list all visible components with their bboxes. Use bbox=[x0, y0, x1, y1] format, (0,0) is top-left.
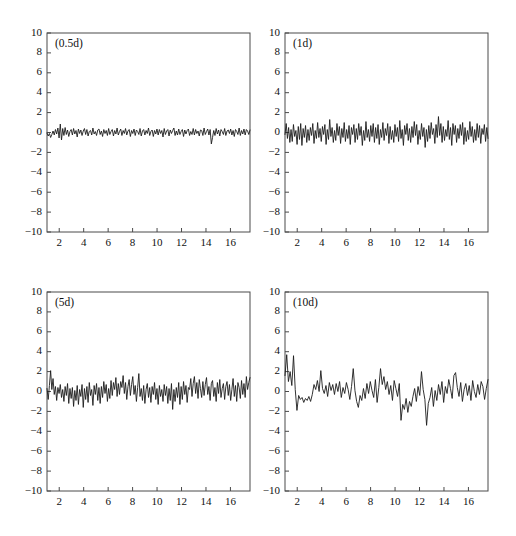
panel-canvas: −10−8−6−4−20246810246810121416(5d) bbox=[0, 271, 258, 523]
y-tick-label: 10 bbox=[269, 26, 281, 38]
x-tick-label: 6 bbox=[343, 495, 349, 507]
y-tick-label: −10 bbox=[263, 225, 281, 237]
y-tick-label: 0 bbox=[37, 384, 43, 396]
y-tick-label: 4 bbox=[37, 344, 43, 356]
x-tick-label: 12 bbox=[176, 495, 187, 507]
y-tick-label: −6 bbox=[30, 444, 42, 456]
y-tick-label: 2 bbox=[275, 105, 281, 117]
y-tick-label: 0 bbox=[37, 125, 43, 137]
y-tick-label: −8 bbox=[268, 464, 280, 476]
x-tick-label: 16 bbox=[463, 495, 475, 507]
x-tick-label: 8 bbox=[130, 236, 136, 248]
y-tick-label: 4 bbox=[275, 85, 281, 97]
panel-label: (5d) bbox=[55, 296, 74, 309]
x-tick-label: 12 bbox=[176, 236, 187, 248]
panel-label: (10d) bbox=[293, 296, 318, 309]
x-tick-label: 6 bbox=[105, 495, 111, 507]
y-tick-label: −8 bbox=[268, 205, 280, 217]
four-panel-residual-figure: −10−8−6−4−20246810246810121416(0.5d)−10−… bbox=[0, 0, 516, 536]
panel-canvas: −10−8−6−4−20246810246810121416(10d) bbox=[238, 271, 496, 523]
x-tick-label: 6 bbox=[105, 236, 111, 248]
x-tick-label: 16 bbox=[225, 236, 237, 248]
y-tick-label: 8 bbox=[37, 304, 43, 316]
panel-label: (1d) bbox=[293, 37, 312, 50]
plot-panel-2: −10−8−6−4−20246810246810121416(5d) bbox=[0, 271, 258, 523]
y-tick-label: −4 bbox=[268, 165, 280, 177]
y-tick-label: 10 bbox=[31, 285, 43, 297]
y-tick-label: −4 bbox=[30, 424, 42, 436]
y-tick-label: −6 bbox=[268, 185, 280, 197]
y-tick-label: 0 bbox=[275, 384, 281, 396]
y-tick-label: −2 bbox=[268, 145, 280, 157]
y-tick-label: −10 bbox=[25, 484, 43, 496]
y-tick-label: 8 bbox=[37, 45, 43, 57]
x-tick-label: 8 bbox=[368, 236, 374, 248]
plot-frame bbox=[285, 292, 488, 491]
x-tick-label: 10 bbox=[152, 236, 164, 248]
x-tick-label: 12 bbox=[414, 236, 425, 248]
y-tick-label: 6 bbox=[275, 324, 281, 336]
x-tick-label: 10 bbox=[390, 495, 402, 507]
y-tick-label: 4 bbox=[275, 344, 281, 356]
y-tick-label: −6 bbox=[268, 444, 280, 456]
y-tick-label: 8 bbox=[275, 304, 281, 316]
y-tick-label: −8 bbox=[30, 205, 42, 217]
y-tick-label: −8 bbox=[30, 464, 42, 476]
y-tick-label: −2 bbox=[30, 145, 42, 157]
x-tick-label: 10 bbox=[152, 495, 164, 507]
x-tick-label: 4 bbox=[81, 236, 87, 248]
y-tick-label: 2 bbox=[275, 364, 281, 376]
y-tick-label: −4 bbox=[268, 424, 280, 436]
x-tick-label: 14 bbox=[200, 495, 212, 507]
x-tick-label: 2 bbox=[294, 236, 300, 248]
x-tick-label: 10 bbox=[390, 236, 402, 248]
panel-label: (0.5d) bbox=[55, 37, 83, 50]
x-tick-label: 2 bbox=[56, 495, 62, 507]
x-tick-label: 4 bbox=[319, 495, 325, 507]
x-tick-label: 6 bbox=[343, 236, 349, 248]
plot-panel-3: −10−8−6−4−20246810246810121416(10d) bbox=[238, 271, 496, 523]
x-tick-label: 8 bbox=[368, 495, 374, 507]
y-tick-label: 8 bbox=[275, 45, 281, 57]
y-tick-label: 0 bbox=[275, 125, 281, 137]
plot-panel-1: −10−8−6−4−20246810246810121416(1d) bbox=[238, 12, 496, 264]
x-tick-label: 2 bbox=[56, 236, 62, 248]
y-tick-label: 2 bbox=[37, 364, 43, 376]
x-tick-label: 4 bbox=[319, 236, 325, 248]
y-tick-label: 10 bbox=[269, 285, 281, 297]
x-tick-label: 14 bbox=[438, 495, 450, 507]
x-tick-label: 8 bbox=[130, 495, 136, 507]
y-tick-label: 2 bbox=[37, 105, 43, 117]
x-tick-label: 4 bbox=[81, 495, 87, 507]
y-tick-label: −10 bbox=[25, 225, 43, 237]
y-tick-label: 6 bbox=[37, 65, 43, 77]
x-tick-label: 14 bbox=[438, 236, 450, 248]
x-tick-label: 16 bbox=[225, 495, 237, 507]
plot-panel-0: −10−8−6−4−20246810246810121416(0.5d) bbox=[0, 12, 258, 264]
x-tick-label: 2 bbox=[294, 495, 300, 507]
x-tick-label: 14 bbox=[200, 236, 212, 248]
y-tick-label: 10 bbox=[31, 26, 43, 38]
panel-canvas: −10−8−6−4−20246810246810121416(1d) bbox=[238, 12, 496, 264]
y-tick-label: −2 bbox=[268, 404, 280, 416]
y-tick-label: −6 bbox=[30, 185, 42, 197]
x-tick-label: 12 bbox=[414, 495, 425, 507]
panel-canvas: −10−8−6−4−20246810246810121416(0.5d) bbox=[0, 12, 258, 264]
y-tick-label: 6 bbox=[37, 324, 43, 336]
x-tick-label: 16 bbox=[463, 236, 475, 248]
y-tick-label: 6 bbox=[275, 65, 281, 77]
y-tick-label: −10 bbox=[263, 484, 281, 496]
y-tick-label: 4 bbox=[37, 85, 43, 97]
y-tick-label: −2 bbox=[30, 404, 42, 416]
y-tick-label: −4 bbox=[30, 165, 42, 177]
